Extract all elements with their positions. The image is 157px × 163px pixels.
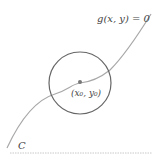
- point-label: (x₀, y₀): [71, 88, 102, 98]
- curve-equation-label: g(x, y) = 0: [97, 13, 151, 24]
- curve-name-label: C: [18, 140, 26, 151]
- diagram-canvas: g(x, y) = 0 (x₀, y₀) C: [0, 0, 157, 163]
- point-marker: [78, 80, 82, 84]
